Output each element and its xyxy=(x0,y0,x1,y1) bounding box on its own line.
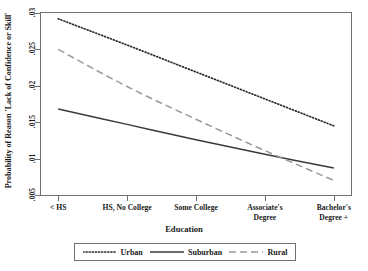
legend-entry-urban: Urban xyxy=(83,248,143,257)
legend-swatch-rural xyxy=(229,248,263,256)
legend-entry-suburban: Suburban xyxy=(150,248,222,257)
x-axis-title: Education xyxy=(0,224,368,234)
x-tick-mark xyxy=(58,196,59,201)
x-tick-label-4: Bachelor'sDegree + xyxy=(291,203,368,222)
legend-label-rural: Rural xyxy=(267,248,287,257)
series-line-rural xyxy=(58,49,334,180)
legend-swatch-suburban xyxy=(150,248,184,256)
y-axis-title-text: Probability of Reason 'Lack of Confidenc… xyxy=(5,12,14,188)
legend-swatch-urban xyxy=(83,248,117,256)
legend-entry-rural: Rural xyxy=(229,248,287,257)
series-line-suburban xyxy=(58,109,334,168)
y-axis-title: Probability of Reason 'Lack of Confidenc… xyxy=(0,0,18,200)
plot-area xyxy=(40,12,352,196)
plot-lines xyxy=(41,13,351,195)
legend-label-urban: Urban xyxy=(121,248,143,257)
x-tick-mark xyxy=(265,196,266,201)
chart-legend: Urban Suburban Rural xyxy=(74,243,296,261)
x-tick-mark xyxy=(196,196,197,201)
x-tick-mark xyxy=(127,196,128,201)
legend-label-suburban: Suburban xyxy=(188,248,222,257)
chart-figure: Probability of Reason 'Lack of Confidenc… xyxy=(0,0,368,271)
x-tick-mark xyxy=(334,196,335,201)
